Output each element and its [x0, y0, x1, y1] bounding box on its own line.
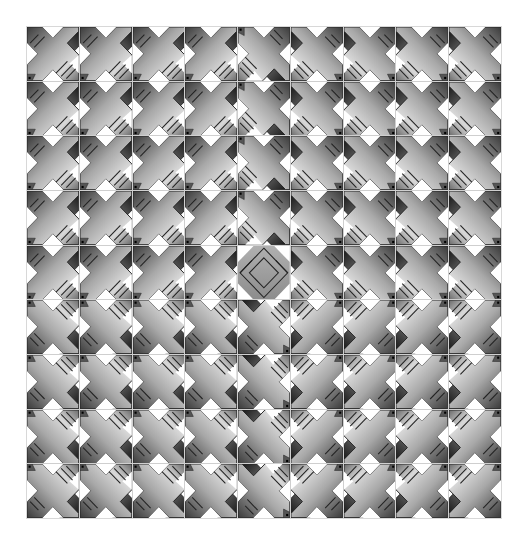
x-cross-tile: [185, 191, 237, 245]
x-cross-tile: [133, 355, 185, 409]
x-cross-tile: [396, 246, 448, 300]
x-cross-tile-graphic: [80, 464, 132, 518]
x-cross-tile: [133, 82, 185, 136]
x-cross-tile-graphic: [80, 27, 132, 81]
x-cross-tile-graphic: [291, 191, 343, 245]
x-cross-tile-graphic: [80, 82, 132, 136]
x-cross-tile: [449, 191, 501, 245]
x-cross-tile: [238, 82, 290, 136]
x-cross-tile: [291, 464, 343, 518]
x-cross-tile-graphic: [449, 355, 501, 409]
x-cross-tile-graphic: [396, 246, 448, 300]
x-cross-tile-graphic: [396, 410, 448, 464]
x-cross-tile-graphic: [396, 27, 448, 81]
x-cross-tile: [344, 136, 396, 190]
x-cross-tile: [449, 300, 501, 354]
x-cross-tile: [80, 410, 132, 464]
x-cross-tile-graphic: [449, 191, 501, 245]
x-cross-tile: [27, 82, 79, 136]
x-cross-tile: [291, 136, 343, 190]
x-cross-tile: [185, 246, 237, 300]
x-cross-tile: [396, 355, 448, 409]
x-cross-tile: [396, 410, 448, 464]
x-cross-tile: [80, 300, 132, 354]
x-cross-tile: [80, 246, 132, 300]
x-cross-tile-graphic: [80, 246, 132, 300]
x-cross-tile: [291, 82, 343, 136]
x-cross-tile: [27, 300, 79, 354]
x-cross-tile-graphic: [449, 82, 501, 136]
x-cross-tile-graphic: [80, 410, 132, 464]
x-cross-tile: [344, 300, 396, 354]
x-cross-tile: [396, 82, 448, 136]
x-cross-tile-graphic: [449, 300, 501, 354]
x-cross-tile: [291, 355, 343, 409]
x-cross-tile-graphic: [133, 246, 185, 300]
x-cross-tile-graphic: [27, 355, 79, 409]
x-cross-tile-graphic: [80, 355, 132, 409]
x-cross-tile-graphic: [27, 246, 79, 300]
x-cross-tile-graphic: [133, 136, 185, 190]
x-cross-tile: [185, 82, 237, 136]
x-cross-tile-graphic: [291, 246, 343, 300]
x-cross-tile: [396, 27, 448, 81]
x-cross-tile-graphic: [291, 355, 343, 409]
x-cross-tile-graphic: [185, 27, 237, 81]
x-cross-tile: [133, 300, 185, 354]
x-cross-tile: [344, 410, 396, 464]
x-cross-tile: [185, 355, 237, 409]
x-cross-tile: [27, 410, 79, 464]
x-cross-tile-graphic: [344, 300, 396, 354]
x-cross-tile-graphic: [27, 464, 79, 518]
x-cross-tile: [185, 464, 237, 518]
x-cross-tile: [133, 136, 185, 190]
x-cross-tile-graphic: [344, 27, 396, 81]
x-cross-tile: [344, 27, 396, 81]
x-cross-tile: [291, 27, 343, 81]
x-cross-tile: [238, 300, 290, 354]
x-cross-tile-graphic: [344, 136, 396, 190]
x-cross-tile: [185, 300, 237, 354]
x-cross-tile-graphic: [238, 136, 290, 190]
x-cross-tile: [133, 410, 185, 464]
x-cross-tile-graphic: [185, 246, 237, 300]
x-cross-tile-graphic: [449, 464, 501, 518]
x-cross-tile: [344, 82, 396, 136]
x-cross-tile: [291, 410, 343, 464]
x-cross-tile-graphic: [27, 410, 79, 464]
x-cross-tile: [344, 464, 396, 518]
x-cross-tile-graphic: [80, 191, 132, 245]
x-cross-tile: [396, 136, 448, 190]
diamond-tile-graphic: [238, 246, 290, 300]
x-cross-tile-graphic: [396, 464, 448, 518]
x-cross-tile: [27, 355, 79, 409]
x-cross-tile-graphic: [238, 464, 290, 518]
x-cross-tile: [291, 246, 343, 300]
x-cross-tile-graphic: [396, 191, 448, 245]
x-cross-tile: [449, 246, 501, 300]
x-cross-tile: [80, 191, 132, 245]
x-cross-tile: [291, 300, 343, 354]
x-cross-tile: [27, 246, 79, 300]
x-cross-tile: [396, 464, 448, 518]
x-cross-tile-graphic: [27, 27, 79, 81]
x-cross-tile-graphic: [238, 410, 290, 464]
x-cross-tile-graphic: [185, 136, 237, 190]
x-cross-tile-graphic: [449, 136, 501, 190]
x-cross-tile-graphic: [185, 410, 237, 464]
x-cross-tile: [238, 410, 290, 464]
x-cross-tile-graphic: [291, 410, 343, 464]
x-cross-tile-graphic: [80, 136, 132, 190]
x-cross-tile: [80, 464, 132, 518]
x-cross-tile: [396, 191, 448, 245]
x-cross-tile: [238, 191, 290, 245]
x-cross-tile: [238, 464, 290, 518]
x-cross-tile: [185, 410, 237, 464]
x-cross-tile-graphic: [396, 82, 448, 136]
x-cross-tile-graphic: [133, 464, 185, 518]
x-cross-tile: [449, 464, 501, 518]
x-cross-tile-graphic: [133, 410, 185, 464]
x-cross-tile-graphic: [238, 300, 290, 354]
x-cross-tile-graphic: [27, 82, 79, 136]
x-cross-tile-graphic: [238, 191, 290, 245]
